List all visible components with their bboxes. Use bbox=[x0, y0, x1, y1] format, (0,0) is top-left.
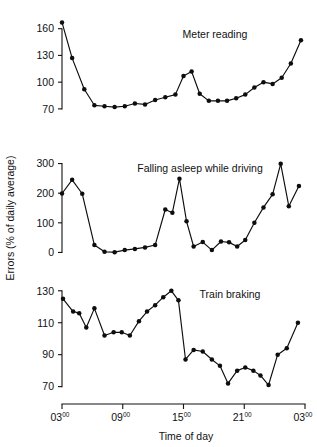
data-point bbox=[227, 240, 232, 245]
data-point bbox=[235, 244, 240, 249]
panel-title: Train braking bbox=[200, 288, 261, 300]
data-point bbox=[207, 99, 212, 104]
x-tick-label: 0900 bbox=[111, 411, 130, 423]
data-point bbox=[119, 330, 124, 335]
y-tick-label: 70 bbox=[42, 380, 54, 392]
data-point bbox=[197, 91, 202, 96]
data-point bbox=[243, 365, 248, 370]
data-point bbox=[176, 298, 181, 303]
data-point bbox=[261, 205, 266, 210]
y-tick-label: 100 bbox=[36, 76, 54, 88]
data-point bbox=[266, 383, 271, 388]
data-point bbox=[84, 325, 89, 330]
panel-title: Meter reading bbox=[183, 28, 248, 40]
data-point bbox=[133, 101, 138, 106]
data-point bbox=[210, 357, 215, 362]
data-point bbox=[92, 103, 97, 108]
data-point bbox=[111, 330, 116, 335]
circadian-errors-figure: Errors (% of daily average) Time of day … bbox=[0, 0, 317, 447]
data-point bbox=[270, 82, 275, 87]
data-point bbox=[270, 192, 275, 197]
data-point bbox=[170, 210, 175, 215]
data-point bbox=[299, 38, 304, 43]
data-point bbox=[163, 207, 168, 212]
data-point bbox=[275, 352, 280, 357]
y-tick-label: 300 bbox=[36, 157, 54, 169]
y-axis-title: Errors (% of daily average) bbox=[4, 156, 16, 281]
panel-falling-asleep-while-driving: 0100200300Falling asleep while driving bbox=[36, 157, 301, 258]
data-point bbox=[252, 221, 257, 226]
data-point bbox=[279, 75, 284, 80]
y-tick-label: 130 bbox=[36, 49, 54, 61]
data-point bbox=[60, 20, 65, 25]
x-axis: 03000900150021000300 bbox=[51, 404, 313, 423]
data-point bbox=[252, 85, 257, 90]
x-tick-label: 0300 bbox=[294, 411, 313, 423]
data-point bbox=[123, 248, 128, 253]
data-point bbox=[161, 295, 166, 300]
data-point bbox=[82, 87, 87, 92]
panel-meter-reading: 70100130160Meter reading bbox=[36, 20, 303, 114]
data-point bbox=[143, 102, 148, 107]
data-point bbox=[219, 239, 224, 244]
data-point bbox=[70, 178, 75, 183]
data-point bbox=[60, 191, 65, 196]
data-point bbox=[177, 176, 182, 181]
data-point bbox=[297, 184, 302, 189]
panel-title: Falling asleep while driving bbox=[137, 162, 263, 174]
data-point bbox=[153, 98, 158, 103]
data-point bbox=[145, 309, 150, 314]
data-point bbox=[258, 373, 263, 378]
data-point bbox=[123, 104, 128, 109]
data-point bbox=[173, 92, 178, 97]
y-tick-label: 110 bbox=[37, 317, 54, 329]
data-point bbox=[234, 96, 239, 101]
y-tick-label: 0 bbox=[48, 246, 54, 258]
y-tick-label: 200 bbox=[36, 187, 54, 199]
data-point bbox=[153, 243, 158, 248]
data-point bbox=[200, 349, 205, 354]
data-point bbox=[143, 245, 148, 250]
data-point bbox=[225, 99, 230, 104]
data-point bbox=[71, 309, 76, 314]
data-point bbox=[235, 368, 240, 373]
data-point bbox=[261, 80, 266, 85]
data-point bbox=[61, 297, 65, 302]
data-point bbox=[137, 319, 142, 324]
data-point bbox=[183, 357, 188, 362]
data-point bbox=[184, 219, 189, 224]
data-point bbox=[226, 381, 231, 386]
data-point bbox=[102, 333, 107, 338]
data-point bbox=[218, 364, 223, 369]
data-point bbox=[92, 306, 97, 311]
y-tick-label: 100 bbox=[36, 217, 54, 229]
data-point bbox=[216, 99, 221, 104]
x-tick-label: 0300 bbox=[51, 411, 70, 423]
series-line bbox=[62, 22, 301, 107]
x-tick-label: 2100 bbox=[233, 411, 252, 423]
data-point bbox=[70, 56, 75, 61]
data-point bbox=[169, 289, 174, 294]
data-point bbox=[189, 69, 194, 74]
data-point bbox=[287, 204, 292, 209]
y-tick-label: 70 bbox=[42, 103, 54, 115]
y-tick-label: 160 bbox=[36, 22, 54, 34]
data-point bbox=[296, 320, 301, 325]
data-point bbox=[112, 105, 117, 110]
data-point bbox=[112, 250, 117, 255]
data-point bbox=[153, 303, 158, 308]
data-point bbox=[251, 368, 256, 373]
data-point bbox=[191, 244, 196, 249]
data-point bbox=[243, 238, 248, 243]
data-point bbox=[77, 311, 82, 316]
y-tick-label: 130 bbox=[36, 285, 54, 297]
data-point bbox=[181, 74, 186, 79]
panel-train-braking: 7090110130Train braking bbox=[36, 285, 300, 393]
data-point bbox=[285, 346, 290, 351]
data-point bbox=[289, 61, 294, 66]
series-line bbox=[63, 291, 298, 385]
data-point bbox=[200, 240, 205, 245]
data-point bbox=[102, 104, 107, 109]
x-tick-label: 1500 bbox=[172, 411, 191, 423]
data-point bbox=[243, 92, 248, 97]
